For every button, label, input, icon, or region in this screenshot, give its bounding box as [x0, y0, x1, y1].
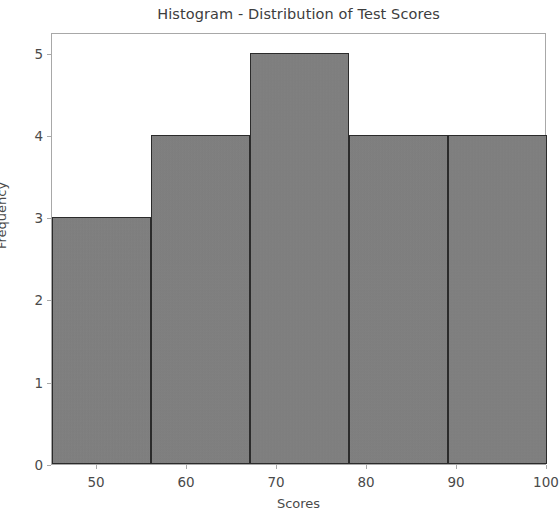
x-tick-label: 80: [336, 474, 396, 490]
x-tick-label: 90: [426, 474, 486, 490]
x-tick-mark: [186, 465, 187, 469]
histogram-bar: [448, 135, 547, 464]
histogram-bar: [250, 53, 349, 464]
histogram-bar: [151, 135, 250, 464]
y-tick-label: 2: [13, 292, 43, 308]
x-tick-mark: [456, 465, 457, 469]
y-tick-mark: [47, 300, 51, 301]
y-tick-mark: [47, 218, 51, 219]
x-tick-label: 100: [516, 474, 560, 490]
plot-area: [51, 33, 546, 465]
y-tick-label: 0: [13, 457, 43, 473]
histogram-figure: Histogram - Distribution of Test Scores …: [0, 0, 560, 517]
x-tick-label: 70: [246, 474, 306, 490]
y-tick-label: 5: [13, 46, 43, 62]
x-tick-mark: [96, 465, 97, 469]
histogram-bar: [349, 135, 448, 464]
x-tick-label: 50: [66, 474, 126, 490]
y-tick-mark: [47, 54, 51, 55]
x-tick-mark: [366, 465, 367, 469]
y-tick-label: 1: [13, 375, 43, 391]
y-axis-label: Frequency: [0, 182, 9, 249]
y-tick-label: 4: [13, 128, 43, 144]
bars-layer: [52, 34, 545, 464]
chart-title: Histogram - Distribution of Test Scores: [51, 6, 546, 22]
y-tick-mark: [47, 136, 51, 137]
y-tick-label: 3: [13, 210, 43, 226]
x-tick-mark: [546, 465, 547, 469]
y-tick-mark: [47, 465, 51, 466]
histogram-bar: [52, 217, 151, 464]
x-tick-label: 60: [156, 474, 216, 490]
x-tick-mark: [276, 465, 277, 469]
x-axis-label: Scores: [51, 496, 546, 511]
y-tick-mark: [47, 383, 51, 384]
